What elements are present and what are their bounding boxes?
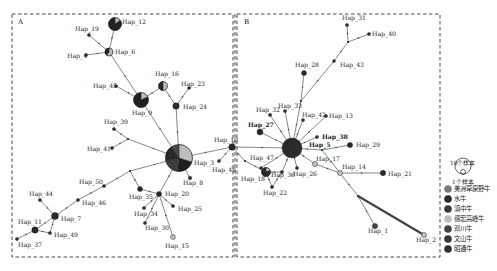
legend-item: 文山牛	[444, 234, 473, 243]
mutation-tick	[303, 155, 305, 157]
haplotype-label: Hap_14	[342, 163, 366, 171]
node-circle	[315, 135, 318, 138]
haplotype-label: Hap_26	[293, 170, 317, 178]
mutation-tick	[154, 164, 156, 166]
mutation-tick	[268, 179, 270, 181]
mutation-tick	[153, 148, 155, 150]
haplotype-node-hap-24	[173, 103, 179, 109]
haplotype-node-hap-17	[312, 161, 317, 166]
haplotype-node-hap-7	[52, 213, 59, 220]
legend-swatch	[444, 215, 452, 223]
legend-items: 美洲草原野牛水牛滇中牛德宏高峰牛邓川牛文山牛昭通牛	[444, 184, 491, 253]
haplotype-node-hap-32	[268, 113, 271, 116]
legend-item: 美洲草原野牛	[444, 184, 491, 193]
node-circle	[157, 192, 162, 197]
mutation-tick	[340, 51, 342, 53]
haplotype-node-hap-38	[315, 135, 318, 138]
mutation-tick	[90, 192, 92, 194]
legend-item: 水牛	[444, 194, 467, 203]
legend-item: 邓川牛	[444, 224, 473, 233]
median-vector-node	[347, 41, 349, 43]
haplotype-node-hap-49	[48, 231, 51, 234]
haplotype-node-hap-21	[380, 170, 385, 175]
mutation-tick	[134, 179, 136, 181]
haplotype-label: Hap_1	[368, 227, 388, 235]
node-circle	[282, 138, 302, 158]
mutation-tick	[182, 96, 184, 98]
mutation-tick	[288, 129, 290, 131]
haplotype-node-hap-6	[105, 48, 113, 56]
mutation-tick	[335, 147, 337, 149]
node-circle	[302, 71, 307, 76]
legend-label: 文山牛	[454, 234, 473, 243]
node-circle	[217, 159, 220, 162]
haplotype-label: Hap_6	[115, 48, 135, 56]
haplotype-node-hap-5	[282, 138, 302, 158]
haplotype-node-hap-16	[159, 82, 168, 91]
haplotype-label: Hap_33	[278, 102, 302, 110]
haplotype-node-hap-10	[229, 144, 235, 150]
node-circle	[367, 32, 370, 35]
node-circle	[229, 144, 235, 150]
legend-swatch	[444, 235, 452, 243]
haplotype-node-hap-12	[109, 18, 122, 31]
legend-swatch	[444, 205, 452, 213]
haplotype-node-hap-48	[217, 159, 220, 162]
mutation-tick	[361, 172, 363, 174]
haplotype-label: Hap_23	[181, 80, 205, 88]
mutation-tick	[366, 210, 368, 212]
mutation-tick	[296, 124, 298, 126]
haplotype-network-figure: A B Hap_12Hap_19Hap_6Hap_4Hap_16Hap_23Ha…	[0, 0, 497, 271]
mutation-tick	[168, 175, 170, 177]
haplotype-label: Hap_20	[165, 190, 189, 198]
mutation-tick	[317, 80, 319, 82]
node-circle	[48, 231, 51, 234]
mutation-tick	[52, 224, 54, 226]
haplotype-label: Hap_36	[271, 171, 295, 179]
node-circle	[260, 167, 263, 170]
haplotype-label: Hap_37	[18, 241, 42, 249]
node-circle	[52, 213, 59, 220]
node-circle	[112, 127, 115, 130]
haplotype-node-hap-9	[134, 93, 149, 108]
mutation-tick	[304, 142, 306, 144]
haplotype-node-hap-47	[260, 167, 263, 170]
haplotype-label: Hap_13	[329, 112, 353, 120]
haplotype-node-hap-43	[333, 60, 336, 63]
haplotype-node-hap-20	[157, 192, 162, 197]
mutation-tick	[165, 215, 167, 217]
haplotype-label: Hap_27	[248, 121, 274, 129]
mutation-tick	[159, 128, 161, 130]
haplotype-node-hap-35	[138, 187, 143, 192]
mutation-tick	[151, 92, 153, 94]
legend-label: 邓川牛	[454, 224, 473, 233]
mutation-tick	[390, 215, 392, 217]
mutation-tick	[261, 147, 263, 149]
haplotype-label: Hap_10	[214, 136, 238, 144]
haplotype-label: Hap_24	[183, 103, 207, 111]
mutation-tick	[348, 184, 350, 186]
node-circle	[257, 129, 263, 135]
haplotype-label: Hap_50	[79, 178, 103, 186]
haplotype-label: Hap_44	[29, 190, 53, 198]
legend-label: 滇中牛	[454, 204, 473, 213]
haplotype-label: Hap_11	[18, 218, 42, 226]
haplotype-node-hap-11	[32, 227, 38, 233]
mutation-tick	[255, 166, 257, 168]
legend-label: 昭通牛	[454, 244, 473, 253]
node-circle	[173, 103, 179, 109]
haplotype-label: Hap_45	[93, 82, 117, 90]
legend-swatch	[444, 185, 452, 193]
haplotype-label: Hap_39	[104, 118, 128, 126]
haplotype-node-hap-39	[112, 127, 115, 130]
mutation-tick	[42, 231, 44, 233]
mutation-tick	[327, 168, 329, 170]
haplotype-label: Hap_19	[75, 25, 99, 33]
mutation-tick	[97, 53, 99, 55]
legend-swatch	[444, 245, 452, 253]
node-circle	[87, 33, 90, 36]
legend-label: 水牛	[454, 194, 467, 203]
mutation-tick	[66, 207, 68, 209]
haplotype-node-hap-28	[302, 71, 307, 76]
mutation-tick	[120, 133, 122, 135]
